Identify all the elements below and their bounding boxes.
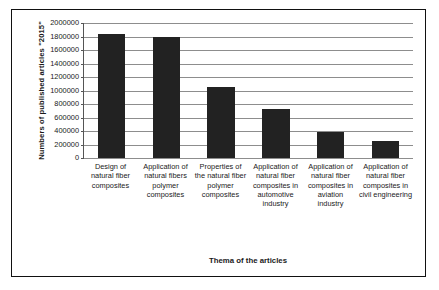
bar: [153, 37, 180, 158]
x-axis-tick-label: Application of natural fibers polymer co…: [138, 162, 193, 208]
bar-slot: [303, 23, 358, 158]
gridline: [84, 158, 413, 159]
y-axis-tick-label: 400000: [23, 127, 79, 134]
plot-inner: 2000000180000016000001400000120000010000…: [83, 23, 413, 159]
x-axis-tick-labels: Design of natural fiber compositesApplic…: [83, 162, 413, 208]
y-axis-tick-label: 800000: [23, 100, 79, 107]
bar: [98, 34, 125, 158]
plot-area: 2000000180000016000001400000120000010000…: [83, 23, 413, 159]
y-axis-tick-label: 600000: [23, 114, 79, 121]
bar-slot: [248, 23, 303, 158]
bar-slot: [139, 23, 194, 158]
bar: [207, 87, 234, 158]
bar: [372, 141, 399, 158]
x-axis-tick-label: Design of natural fiber composites: [83, 162, 138, 208]
x-axis-tick-label: Application of natural fiber composites …: [248, 162, 303, 208]
chart-figure-frame: Numbers of published articles "2015" 200…: [11, 9, 426, 277]
bar-series: [84, 23, 413, 158]
y-axis-tick-label: 0: [23, 154, 79, 161]
y-axis-tick: [81, 158, 84, 159]
y-axis-tick-label: 1000000: [23, 87, 79, 94]
bar-slot: [194, 23, 249, 158]
bar-slot: [358, 23, 413, 158]
x-axis-title: Thema of the articles: [83, 256, 413, 265]
bar-slot: [84, 23, 139, 158]
figure-caption: [13, 282, 425, 290]
x-axis-tick-label: Application of natural fiber composites …: [358, 162, 413, 208]
y-axis-tick-label: 1800000: [23, 33, 79, 40]
y-axis-tick-label: 1200000: [23, 73, 79, 80]
bar: [317, 132, 344, 158]
y-axis-tick-label: 2000000: [23, 19, 79, 26]
bar: [262, 109, 289, 158]
y-axis-tick-label: 200000: [23, 141, 79, 148]
y-axis-tick-label: 1400000: [23, 60, 79, 67]
x-axis-tick-label: Application of natural fiber composites …: [303, 162, 358, 208]
x-axis-tick-label: Properties of the natural fiber polymer …: [193, 162, 248, 208]
y-axis-tick-label: 1600000: [23, 46, 79, 53]
